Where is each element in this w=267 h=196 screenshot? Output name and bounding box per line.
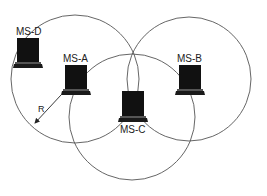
node-ms-b: MS-B — [175, 53, 205, 95]
node-ms-a: MS-A — [61, 53, 91, 95]
node-label-ms-a: MS-A — [63, 53, 88, 64]
laptop-icon — [175, 65, 205, 95]
range-overlap-diagram: MS-D MS-A MS-B MS-C R — [0, 0, 267, 196]
laptop-icon — [61, 65, 91, 95]
radius-label: R — [38, 104, 45, 114]
laptop-icon — [118, 91, 148, 122]
node-ms-d: MS-D — [13, 26, 43, 68]
node-ms-c: MS-C — [118, 91, 148, 135]
laptop-icon — [13, 38, 43, 68]
node-label-ms-c: MS-C — [120, 124, 146, 135]
node-label-ms-b: MS-B — [177, 53, 202, 64]
radius-indicator: R — [35, 95, 61, 123]
node-label-ms-d: MS-D — [16, 26, 42, 37]
